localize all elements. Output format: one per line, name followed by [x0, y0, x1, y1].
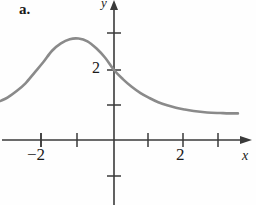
y-axis-arrowhead	[110, 0, 118, 10]
y-tick-label-2: 2	[92, 60, 100, 76]
x-tick-label-2: 2	[176, 146, 185, 163]
coordinate-plane	[0, 0, 256, 205]
function-curve	[1, 38, 238, 113]
x-axis-arrowhead	[240, 136, 252, 144]
x-tick-label-neg2: −2	[27, 146, 45, 163]
graph-figure: a. y x 2 −2 2	[0, 0, 256, 205]
y-axis-label: y	[101, 0, 107, 9]
part-label: a.	[19, 2, 30, 17]
x-axis-label: x	[242, 149, 248, 163]
